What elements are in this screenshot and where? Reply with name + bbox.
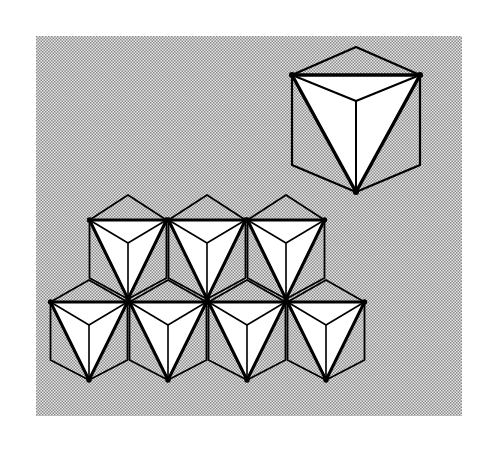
vertex [285,299,290,304]
vertex [166,217,171,222]
diagram-canvas [0,0,496,452]
vertex [245,217,250,222]
vertex [165,377,170,382]
vertex [127,299,132,304]
vertex [289,72,295,78]
vertex [362,299,367,304]
vertex [244,377,249,382]
vertex [48,299,53,304]
vertex [86,377,91,382]
vertex [322,217,327,222]
vertex [206,299,211,304]
vertex [353,189,359,195]
vertex [417,72,423,78]
vertex [87,217,92,222]
vertex [323,377,328,382]
